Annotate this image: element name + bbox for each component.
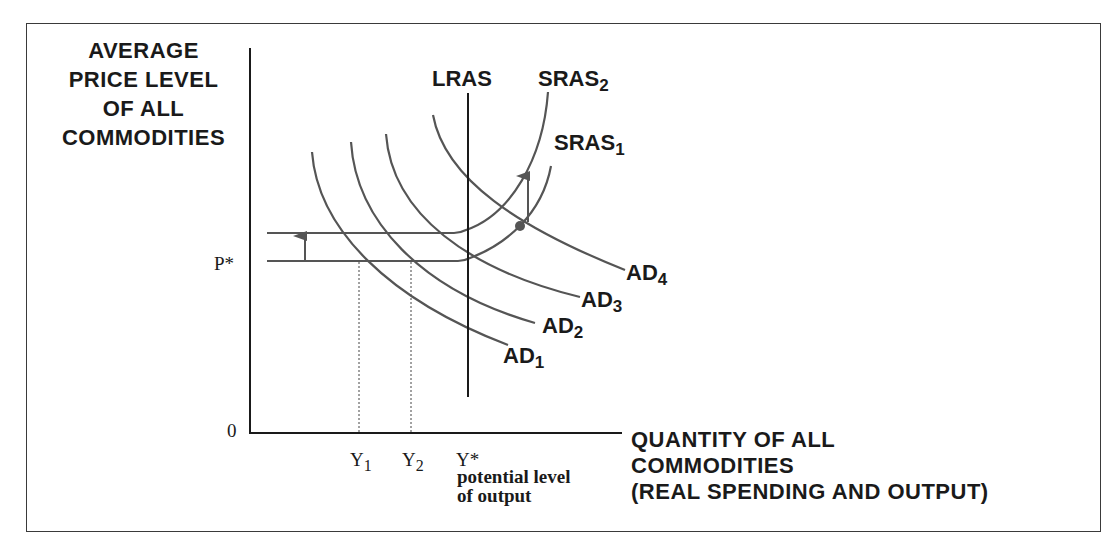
potential-note-line-1: potential level <box>457 467 570 486</box>
potential-note-line-2: of output <box>457 486 570 505</box>
x-axis-title-line-1: QUANTITY OF ALL <box>631 427 1091 453</box>
y-axis-title-line-2: PRICE LEVEL <box>36 65 251 94</box>
ad1-curve <box>312 152 508 345</box>
origin-label: 0 <box>227 420 237 441</box>
y1-tick-label: Y1 <box>350 449 372 474</box>
sras1-curve <box>267 166 551 261</box>
equilibrium-point <box>515 221 525 231</box>
ad1-label: AD1 <box>503 343 544 372</box>
lras-label: LRAS <box>432 66 492 91</box>
y-axis-title-line-3: OF ALL <box>36 94 251 123</box>
y-axis-title-line-1: AVERAGE <box>36 36 251 65</box>
sras1-label: SRAS1 <box>554 130 625 159</box>
ad3-label: AD3 <box>581 287 622 316</box>
ad2-label: AD2 <box>542 313 583 342</box>
potential-output-note: potential level of output <box>457 467 570 505</box>
x-axis-title: QUANTITY OF ALL COMMODITIES (REAL SPENDI… <box>631 427 1091 505</box>
x-axis-title-line-3: (REAL SPENDING AND OUTPUT) <box>631 479 1091 505</box>
x-axis-title-line-2: COMMODITIES <box>631 453 1091 479</box>
sras2-curve <box>267 92 548 233</box>
p-star-label: P* <box>214 253 234 274</box>
ad3-curve <box>386 134 580 297</box>
y-axis-title-line-4: COMMODITIES <box>36 123 251 152</box>
ad4-label: AD4 <box>626 260 668 289</box>
y-axis-title: AVERAGE PRICE LEVEL OF ALL COMMODITIES <box>36 36 251 152</box>
y2-tick-label: Y2 <box>402 449 424 474</box>
sras2-label: SRAS2 <box>538 66 609 95</box>
